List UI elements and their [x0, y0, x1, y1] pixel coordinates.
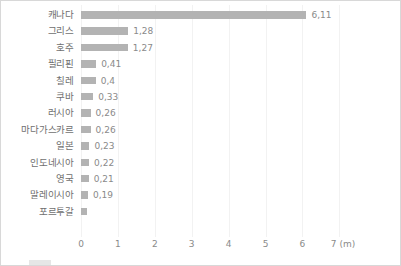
- category-label: 포르투갈: [1, 204, 74, 220]
- category-label: 쿠바: [1, 89, 74, 105]
- bar-chart: 캐나다6,11그리스1,28호주1,27필리핀0,41칠레0,4쿠바0,33러시…: [0, 0, 401, 266]
- bar-row: 그리스1,28: [1, 23, 401, 39]
- bar-track: [81, 204, 401, 220]
- x-tick-label-6: 6: [300, 237, 306, 251]
- plot-area: 캐나다6,11그리스1,28호주1,27필리핀0,41칠레0,4쿠바0,33러시…: [1, 1, 401, 266]
- x-tick-label-4: 4: [226, 237, 232, 251]
- bar-row: 마다가스카르0,26: [1, 122, 401, 138]
- bar-value-label: 0,41: [101, 56, 121, 72]
- bar-row: 쿠바0,33: [1, 89, 401, 105]
- bar[interactable]: [81, 60, 96, 68]
- legend-swatch-cutoff: [29, 260, 51, 266]
- bar-track: 0,22: [81, 155, 401, 171]
- bar[interactable]: [81, 175, 89, 183]
- bar-track: 0,26: [81, 105, 401, 121]
- category-label: 캐나다: [1, 7, 74, 23]
- bar-value-label: 0,19: [93, 187, 113, 203]
- category-label: 그리스: [1, 23, 74, 39]
- bar-value-label: 1,27: [133, 40, 153, 56]
- bar-value-label: 0,23: [94, 138, 114, 154]
- bar-value-label: 0,26: [96, 105, 116, 121]
- category-label: 인도네시아: [1, 155, 74, 171]
- bar-track: 0,23: [81, 138, 401, 154]
- x-tick-label-2: 2: [152, 237, 158, 251]
- bar-track: 0,19: [81, 187, 401, 203]
- bar-track: 6,11: [81, 7, 401, 23]
- bar-row: 일본0,23: [1, 138, 401, 154]
- bar-value-label: 0,33: [98, 89, 118, 105]
- bar[interactable]: [81, 126, 91, 134]
- category-label: 호주: [1, 40, 74, 56]
- bar[interactable]: [81, 191, 88, 199]
- bar-track: 0,41: [81, 56, 401, 72]
- category-label: 칠레: [1, 73, 74, 89]
- bar-row: 러시아0,26: [1, 105, 401, 121]
- bar[interactable]: [81, 159, 89, 167]
- bar-value-label: 0,21: [94, 171, 114, 187]
- bar-value-label: 1,28: [133, 23, 153, 39]
- bar-track: 0,33: [81, 89, 401, 105]
- bar-row: 필리핀0,41: [1, 56, 401, 72]
- bar-track: 1,27: [81, 40, 401, 56]
- bar[interactable]: [81, 208, 87, 216]
- x-tick-label-1: 1: [115, 237, 121, 251]
- x-tick-label-5: 5: [263, 237, 269, 251]
- bar-row: 말레이시아0,19: [1, 187, 401, 203]
- x-axis: 01234567(m): [1, 237, 401, 255]
- bar-value-label: 0,26: [96, 122, 116, 138]
- category-label: 말레이시아: [1, 187, 74, 203]
- bar[interactable]: [81, 27, 128, 35]
- bar-row: 포르투갈: [1, 204, 401, 220]
- bar-track: 1,28: [81, 23, 401, 39]
- bar[interactable]: [81, 142, 89, 150]
- bar[interactable]: [81, 44, 128, 52]
- bar-row: 칠레0,4: [1, 73, 401, 89]
- bar-value-label: 0,4: [101, 73, 115, 89]
- bar-rows: 캐나다6,11그리스1,28호주1,27필리핀0,41칠레0,4쿠바0,33러시…: [1, 7, 401, 220]
- bar-track: 0,26: [81, 122, 401, 138]
- bar-row: 캐나다6,11: [1, 7, 401, 23]
- bar-row: 인도네시아0,22: [1, 155, 401, 171]
- category-label: 영국: [1, 171, 74, 187]
- bar-row: 호주1,27: [1, 40, 401, 56]
- bar[interactable]: [81, 109, 91, 117]
- bar-track: 0,4: [81, 73, 401, 89]
- category-label: 러시아: [1, 105, 74, 121]
- bar[interactable]: [81, 11, 306, 19]
- category-label: 마다가스카르: [1, 122, 74, 138]
- bar[interactable]: [81, 77, 96, 85]
- bar-value-label: 0,22: [94, 155, 114, 171]
- bar[interactable]: [81, 93, 93, 101]
- x-tick-label-0: 0: [78, 237, 84, 251]
- x-tick-label-3: 3: [189, 237, 195, 251]
- bar-track: 0,21: [81, 171, 401, 187]
- category-label: 필리핀: [1, 56, 74, 72]
- category-label: 일본: [1, 138, 74, 154]
- bar-row: 영국0,21: [1, 171, 401, 187]
- bar-value-label: 6,11: [311, 7, 331, 23]
- x-axis-unit-label: (m): [339, 239, 355, 249]
- x-tick-label-7: 7(m): [331, 237, 356, 251]
